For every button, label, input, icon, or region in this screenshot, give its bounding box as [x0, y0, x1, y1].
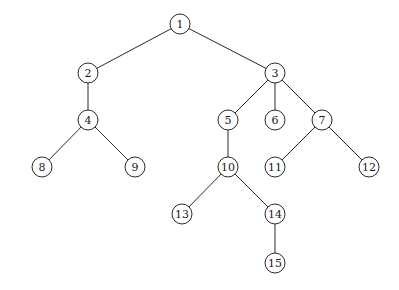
edge-1-3: [180, 24, 275, 73]
node-label: 11: [268, 161, 282, 174]
tree-node-8: 8: [32, 157, 52, 177]
tree-node-10: 10: [218, 157, 238, 177]
node-label: 3: [272, 67, 279, 80]
tree-node-4: 4: [78, 110, 98, 130]
tree-node-6: 6: [265, 110, 285, 130]
node-label: 4: [85, 114, 92, 127]
node-label: 1: [177, 18, 184, 31]
tree-node-5: 5: [218, 110, 238, 130]
node-label: 5: [225, 114, 232, 127]
tree-node-2: 2: [78, 63, 98, 83]
tree-node-1: 1: [170, 14, 190, 34]
tree-node-12: 12: [359, 157, 379, 177]
node-label: 9: [132, 161, 139, 174]
node-label: 7: [319, 114, 326, 127]
tree-node-14: 14: [265, 204, 285, 224]
node-label: 12: [362, 161, 376, 174]
edges-group: [42, 24, 369, 263]
node-label: 10: [221, 161, 235, 174]
node-label: 6: [272, 114, 279, 127]
node-label: 8: [39, 161, 46, 174]
tree-node-3: 3: [265, 63, 285, 83]
tree-node-11: 11: [265, 157, 285, 177]
node-label: 15: [268, 257, 282, 270]
node-label: 2: [85, 67, 92, 80]
tree-node-9: 9: [125, 157, 145, 177]
tree-node-13: 13: [172, 204, 192, 224]
edge-1-2: [88, 24, 180, 73]
nodes-group: 123456789101112131415: [32, 14, 379, 273]
node-label: 14: [268, 208, 282, 221]
tree-diagram: 123456789101112131415: [0, 0, 399, 290]
node-label: 13: [175, 208, 189, 221]
tree-node-15: 15: [265, 253, 285, 273]
tree-node-7: 7: [312, 110, 332, 130]
